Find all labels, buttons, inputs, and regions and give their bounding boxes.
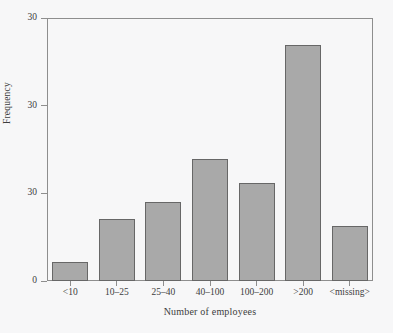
y-tick-label: 30 — [0, 11, 37, 24]
y-tick-label: 30 — [0, 186, 37, 199]
x-tick-mark — [210, 281, 211, 286]
bar — [332, 226, 368, 281]
x-tick-mark — [349, 281, 350, 286]
y-tick-mark — [41, 18, 47, 19]
histogram-figure: Frequency Number of employees 3030300 <1… — [0, 0, 393, 333]
x-tick-mark — [303, 281, 304, 286]
y-tick-mark — [41, 105, 47, 106]
x-tick-mark — [163, 281, 164, 286]
bar — [52, 262, 88, 281]
y-tick-label: 30 — [0, 99, 37, 112]
y-tick-mark — [41, 281, 47, 282]
bar — [192, 159, 228, 281]
x-tick-mark — [116, 281, 117, 286]
y-tick-label: 0 — [0, 274, 37, 287]
bar — [239, 183, 275, 281]
x-tick-mark — [256, 281, 257, 286]
bar — [145, 202, 181, 281]
bar — [99, 219, 135, 281]
x-tick-label: <missing> — [305, 287, 393, 297]
y-tick-mark — [41, 193, 47, 194]
bar — [285, 45, 321, 281]
x-axis-title: Number of employees — [47, 306, 373, 317]
x-tick-mark — [70, 281, 71, 286]
